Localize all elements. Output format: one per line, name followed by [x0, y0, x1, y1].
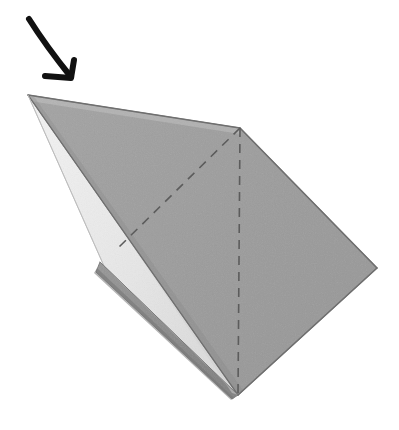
origami-figure-container: A folded sheet of paper seen in three-qu… — [0, 0, 399, 430]
origami-diagram-svg — [0, 0, 399, 430]
